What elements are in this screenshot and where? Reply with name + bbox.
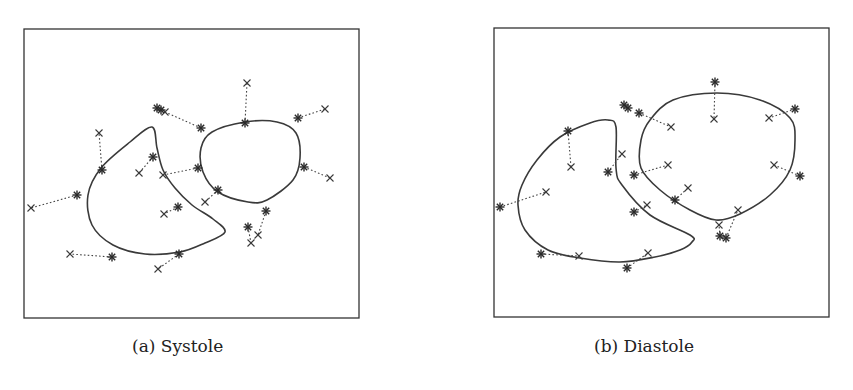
- caption-systole: (a) Systole: [132, 336, 223, 356]
- correspondence-line: [258, 211, 266, 235]
- cross-marker-icon: [543, 189, 550, 196]
- asterisk-marker-icon: [711, 78, 720, 87]
- figure-canvas: [0, 0, 853, 390]
- asterisk-marker-icon: [604, 168, 613, 177]
- asterisk-marker-icon: [623, 264, 632, 273]
- cross-marker-icon: [161, 211, 168, 218]
- correspondence-line: [164, 207, 178, 214]
- correspondence-line: [304, 167, 330, 178]
- caption-diastole: (b) Diastole: [594, 336, 694, 356]
- cross-marker-icon: [136, 170, 143, 177]
- cross-marker-icon: [327, 175, 334, 182]
- panel-systole: [24, 29, 359, 318]
- cross-marker-icon: [155, 266, 162, 273]
- correspondence-line: [31, 195, 77, 208]
- cross-marker-icon: [665, 162, 672, 169]
- correspondence-line: [568, 131, 571, 167]
- asterisk-marker-icon: [564, 127, 573, 136]
- correspondence-line: [99, 133, 102, 170]
- asterisk-marker-icon: [108, 253, 117, 262]
- asterisk-marker-icon: [194, 164, 203, 173]
- asterisk-marker-icon: [174, 203, 183, 212]
- asterisk-marker-icon: [630, 208, 639, 217]
- asterisk-marker-icon: [244, 223, 253, 232]
- asterisk-marker-icon: [73, 191, 82, 200]
- correspondence-line: [634, 165, 668, 175]
- cross-marker-icon: [568, 164, 575, 171]
- cross-marker-icon: [735, 207, 742, 214]
- correspondence-line: [639, 113, 671, 127]
- correspondence-line: [165, 112, 201, 128]
- panel-diastole: [494, 28, 829, 317]
- crescent-contour: [87, 127, 225, 255]
- asterisk-marker-icon: [157, 106, 166, 115]
- correspondence-line: [500, 192, 546, 207]
- asterisk-marker-icon: [149, 153, 158, 162]
- asterisk-marker-icon: [241, 119, 250, 128]
- correspondence-line: [714, 82, 715, 119]
- asterisk-marker-icon: [791, 105, 800, 114]
- correspondence-line: [245, 83, 247, 123]
- cross-marker-icon: [771, 162, 778, 169]
- asterisk-marker-icon: [671, 196, 680, 205]
- correspondence-line: [70, 254, 112, 257]
- cross-marker-icon: [644, 202, 651, 209]
- asterisk-marker-icon: [214, 186, 223, 195]
- asterisk-marker-icon: [496, 203, 505, 212]
- asterisk-marker-icon: [624, 104, 633, 113]
- asterisk-marker-icon: [294, 114, 303, 123]
- correspondence-line: [726, 210, 738, 238]
- asterisk-marker-icon: [537, 250, 546, 259]
- circle-contour: [639, 93, 795, 220]
- asterisk-marker-icon: [722, 234, 731, 243]
- cross-marker-icon: [619, 151, 626, 158]
- asterisk-marker-icon: [175, 250, 184, 259]
- asterisk-marker-icon: [262, 207, 271, 216]
- cross-marker-icon: [685, 185, 692, 192]
- asterisk-marker-icon: [197, 124, 206, 133]
- correspondence-line: [163, 168, 198, 175]
- cross-marker-icon: [255, 232, 262, 239]
- cross-marker-icon: [244, 80, 251, 87]
- cross-marker-icon: [766, 115, 773, 122]
- cross-marker-icon: [67, 251, 74, 258]
- correspondence-line: [298, 109, 325, 118]
- panel-frame: [24, 29, 359, 318]
- cross-marker-icon: [322, 106, 329, 113]
- cross-marker-icon: [202, 199, 209, 206]
- asterisk-marker-icon: [300, 163, 309, 172]
- cross-marker-icon: [645, 250, 652, 257]
- cross-marker-icon: [668, 124, 675, 131]
- cross-marker-icon: [248, 240, 255, 247]
- asterisk-marker-icon: [796, 172, 805, 181]
- asterisk-marker-icon: [635, 109, 644, 118]
- asterisk-marker-icon: [98, 166, 107, 175]
- panel-frame: [494, 28, 829, 317]
- cross-marker-icon: [28, 205, 35, 212]
- asterisk-marker-icon: [630, 171, 639, 180]
